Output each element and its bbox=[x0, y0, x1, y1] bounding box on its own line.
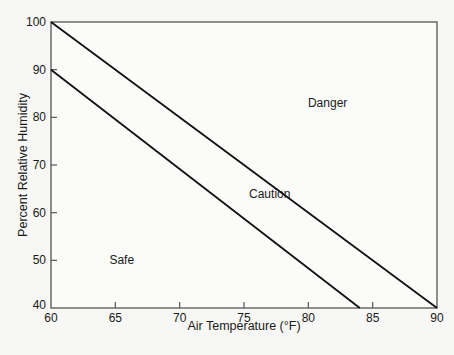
y-axis-title: Percent Relative Humidity bbox=[16, 92, 30, 237]
y-tick-label: 80 bbox=[33, 110, 47, 124]
y-tick-label: 90 bbox=[33, 63, 47, 77]
y-tick-label: 40 bbox=[33, 298, 47, 312]
chart: 60657075808590 405060708090100 DangerCau… bbox=[0, 0, 454, 355]
y-tick-label: 50 bbox=[33, 253, 47, 267]
x-axis-title: Air Temperature (°F) bbox=[187, 319, 300, 333]
x-tick-label: 70 bbox=[173, 311, 187, 325]
y-tick-label: 70 bbox=[33, 158, 47, 172]
region-label-danger: Danger bbox=[308, 96, 347, 110]
region-label-caution: Caution bbox=[249, 187, 290, 201]
x-tick-label: 60 bbox=[44, 311, 58, 325]
x-tick-label: 65 bbox=[109, 311, 123, 325]
y-tick-label: 60 bbox=[33, 206, 47, 220]
y-tick-label: 100 bbox=[26, 15, 46, 29]
region-label-safe: Safe bbox=[109, 253, 134, 267]
x-tick-label: 90 bbox=[430, 311, 444, 325]
x-tick-label: 85 bbox=[366, 311, 380, 325]
x-tick-label: 80 bbox=[302, 311, 316, 325]
